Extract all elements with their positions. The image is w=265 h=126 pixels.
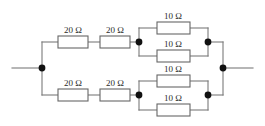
node-right-terminal: [220, 65, 227, 72]
label-r_top_par_1: 10 Ω: [164, 11, 182, 21]
label-r_top_left_1: 20 Ω: [64, 25, 82, 35]
node-top-right: [205, 39, 212, 46]
resistor-r_bot_par_2-body: [157, 104, 190, 116]
node-left-terminal: [39, 65, 46, 72]
resistor-r_top_par_2-body: [157, 50, 190, 62]
label-r_bot_left_1: 20 Ω: [64, 78, 82, 88]
label-r_bot_left_2: 20 Ω: [106, 78, 124, 88]
circuit-schematic-svg: 20 Ω 20 Ω 10 Ω 10 Ω 20 Ω 20 Ω 10 Ω 10 Ω: [0, 0, 265, 126]
circuit-diagram: 20 Ω 20 Ω 10 Ω 10 Ω 20 Ω 20 Ω 10 Ω 10 Ω: [0, 0, 265, 126]
node-bottom-mid: [136, 92, 143, 99]
label-r_top_left_2: 20 Ω: [106, 25, 124, 35]
resistor-r_top_left_2-body: [100, 36, 130, 48]
node-bottom-right: [205, 92, 212, 99]
resistor-r_bot_left_1-body: [58, 89, 88, 101]
label-r_bot_par_2: 10 Ω: [164, 93, 182, 103]
resistor-r_bot_left_2-body: [100, 89, 130, 101]
resistor-r_bot_par_1-body: [157, 75, 190, 87]
wire-group: [12, 28, 253, 110]
resistor-r_top_left_1-body: [58, 36, 88, 48]
resistor-r_top_par_1-body: [157, 22, 190, 34]
label-r_bot_par_1: 10 Ω: [164, 64, 182, 74]
label-r_top_par_2: 10 Ω: [164, 39, 182, 49]
node-top-mid: [136, 39, 143, 46]
